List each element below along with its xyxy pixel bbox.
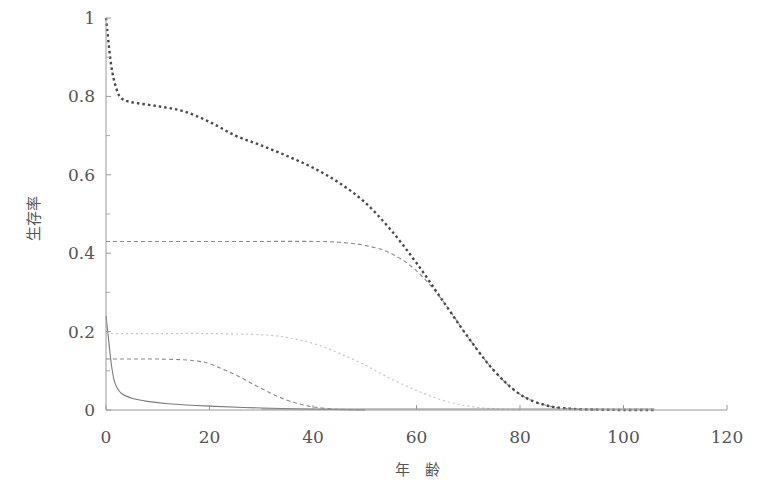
series-line-component-infant	[106, 316, 365, 410]
y-tick-label: 0	[84, 400, 95, 420]
x-ticks: 020406080100120	[101, 405, 744, 447]
axes: 00.20.40.60.81 020406080100120	[68, 8, 743, 447]
x-tick-label: 0	[101, 427, 112, 447]
y-tick-label: 0.6	[68, 165, 95, 185]
y-tick-label: 0.4	[68, 243, 95, 263]
x-tick-label: 120	[711, 427, 743, 447]
x-tick-label: 60	[406, 427, 428, 447]
series-line-total	[106, 18, 655, 410]
series-layer	[106, 18, 655, 410]
y-tick-label: 0.8	[68, 86, 95, 106]
x-tick-label: 100	[607, 427, 639, 447]
series-line-component-0.195	[106, 333, 520, 410]
series-line-component-0.13	[106, 359, 365, 410]
series-line-component-0.43	[106, 241, 598, 410]
x-tick-label: 40	[302, 427, 324, 447]
svg-text:生存率: 生存率	[25, 196, 43, 241]
survival-chart: 00.20.40.60.81 020406080100120 年 齢 生存率	[0, 0, 757, 494]
x-tick-label: 20	[199, 427, 221, 447]
y-ticks: 00.20.40.60.81	[68, 8, 111, 420]
y-axis-title: 生存率	[25, 196, 43, 241]
y-tick-label: 0.2	[68, 322, 95, 342]
x-tick-label: 80	[509, 427, 531, 447]
x-axis-title: 年 齢	[395, 461, 440, 479]
y-tick-label: 1	[84, 8, 95, 28]
